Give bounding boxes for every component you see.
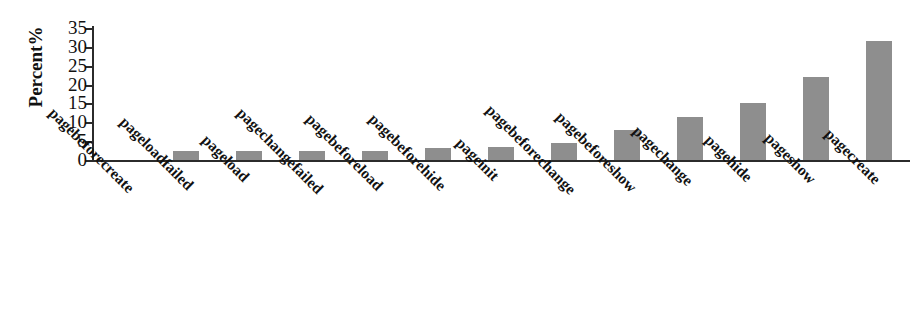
- x-axis-labels: pagebeforecreatepageloadfailedpageloadpa…: [92, 164, 910, 314]
- y-axis-title: Percent%: [25, 7, 47, 127]
- bar: [866, 41, 892, 160]
- y-tick-label: 30: [68, 36, 87, 58]
- bar: [488, 147, 514, 160]
- bar: [551, 143, 577, 160]
- bar: [173, 151, 199, 160]
- bar: [236, 151, 262, 160]
- y-tick-label: 15: [68, 92, 87, 114]
- bar: [740, 103, 766, 160]
- bar: [803, 77, 829, 160]
- bar: [299, 151, 325, 160]
- y-tick-label: 20: [68, 74, 87, 96]
- bar: [362, 151, 388, 160]
- y-tick-label: 35: [68, 17, 87, 39]
- bar: [677, 117, 703, 160]
- bar: [425, 148, 451, 160]
- y-tick-label: 25: [68, 55, 87, 77]
- bar-chart: Percent% 05101520253035 pagebeforecreate…: [0, 0, 922, 320]
